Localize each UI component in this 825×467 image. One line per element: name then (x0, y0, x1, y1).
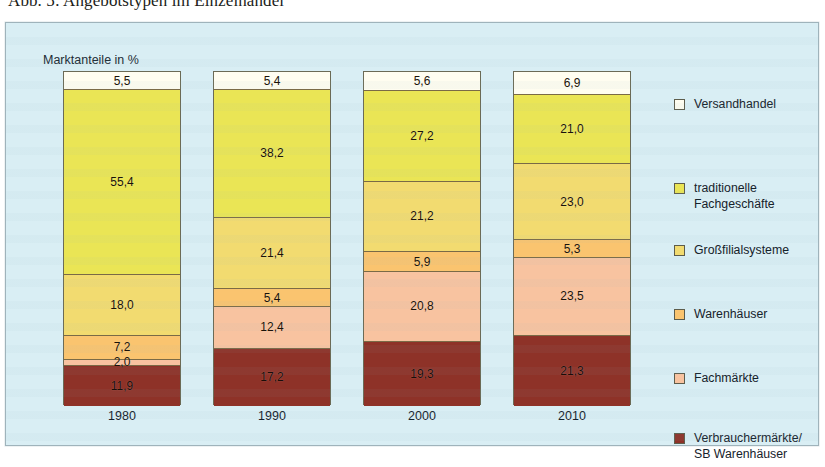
bar-group-1980: 5,555,418,07,22,011,91980 (63, 71, 181, 427)
bar-group-2000: 5,627,221,25,920,819,32000 (363, 71, 481, 427)
stacked-bar[interactable]: 6,921,023,05,323,521,3 (513, 71, 631, 405)
segment-value-label: 17,2 (260, 371, 283, 383)
bar-segment[interactable]: 21,0 (514, 95, 630, 164)
segment-value-label: 27,2 (410, 130, 433, 142)
segment-value-label: 5,4 (264, 75, 281, 87)
segment-value-label: 21,3 (560, 365, 583, 377)
segment-value-label: 23,0 (560, 196, 583, 208)
stacked-bar[interactable]: 5,627,221,25,920,819,3 (363, 71, 481, 405)
segment-value-label: 21,4 (260, 247, 283, 259)
bar-segment[interactable]: 21,4 (214, 218, 330, 289)
bar-segment[interactable]: 17,2 (214, 349, 330, 406)
bar-group-2010: 6,921,023,05,323,521,32010 (513, 71, 631, 427)
segment-value-label: 21,0 (560, 123, 583, 135)
legend-item-label: Großfilialsysteme (694, 243, 789, 259)
bar-segment[interactable]: 21,2 (364, 182, 480, 253)
bar-segment[interactable]: 5,9 (364, 252, 480, 272)
legend-item[interactable]: Großfilialsysteme (674, 243, 789, 259)
legend-color-swatch (674, 183, 685, 194)
axis-title-marktanteile: Marktanteile in % (43, 53, 139, 67)
segment-value-label: 5,9 (414, 256, 431, 268)
bar-segment[interactable]: 5,5 (64, 72, 180, 90)
chart-frame: Marktanteile in % 5,555,418,07,22,011,91… (5, 22, 819, 446)
bar-segment[interactable]: 11,9 (64, 366, 180, 406)
chart-legend: Versandhandeltraditionelle Fachgeschäfte… (674, 71, 820, 427)
bar-segment[interactable]: 6,9 (514, 72, 630, 95)
bar-segment[interactable]: 5,4 (214, 72, 330, 90)
bar-segment[interactable]: 2,0 (64, 360, 180, 367)
legend-color-swatch (674, 99, 685, 110)
bar-segment[interactable]: 23,0 (514, 164, 630, 240)
legend-item[interactable]: Verbrauchermärkte/ SB Warenhäuser (674, 431, 802, 462)
segment-value-label: 6,9 (564, 77, 581, 89)
legend-item[interactable]: Versandhandel (674, 97, 776, 113)
segment-value-label: 5,5 (114, 75, 131, 87)
legend-item-label: traditionelle Fachgeschäfte (694, 181, 775, 212)
segment-value-label: 12,4 (260, 321, 283, 333)
bar-segment[interactable]: 5,3 (514, 240, 630, 258)
bar-segment[interactable]: 12,4 (214, 307, 330, 348)
legend-color-swatch (674, 373, 685, 384)
segment-value-label: 7,2 (114, 341, 131, 353)
legend-color-swatch (674, 309, 685, 320)
segment-value-label: 55,4 (110, 176, 133, 188)
segment-value-label: 23,5 (560, 290, 583, 302)
bar-segment[interactable]: 55,4 (64, 90, 180, 275)
segment-value-label: 5,4 (264, 292, 281, 304)
legend-item[interactable]: Warenhäuser (674, 307, 767, 323)
bar-segment[interactable]: 21,3 (514, 336, 630, 406)
segment-value-label: 21,2 (410, 210, 433, 222)
legend-item[interactable]: Fachmärkte (674, 371, 759, 387)
segment-value-label: 5,3 (564, 243, 581, 255)
bar-segment[interactable]: 38,2 (214, 90, 330, 218)
bar-segment[interactable]: 23,5 (514, 258, 630, 336)
bar-segment[interactable]: 5,4 (214, 289, 330, 307)
bar-segment[interactable]: 5,6 (364, 72, 480, 91)
plot-area: 5,555,418,07,22,011,919805,438,221,45,41… (63, 71, 663, 427)
stacked-bar[interactable]: 5,438,221,45,412,417,2 (213, 71, 331, 405)
bar-segment[interactable]: 18,0 (64, 275, 180, 335)
segment-value-label: 18,0 (110, 299, 133, 311)
x-axis-label-2010: 2010 (513, 409, 631, 423)
segment-value-label: 5,6 (414, 75, 431, 87)
legend-item-label: Verbrauchermärkte/ SB Warenhäuser (694, 431, 802, 462)
x-axis-label-1980: 1980 (63, 409, 181, 423)
segment-value-label: 2,0 (114, 356, 131, 368)
segment-value-label: 11,9 (111, 380, 133, 392)
x-axis-label-1990: 1990 (213, 409, 331, 423)
legend-item[interactable]: traditionelle Fachgeschäfte (674, 181, 775, 212)
legend-color-swatch (674, 433, 685, 444)
stacked-bar[interactable]: 5,555,418,07,22,011,9 (63, 71, 181, 405)
bar-segment[interactable]: 20,8 (364, 272, 480, 341)
legend-color-swatch (674, 245, 685, 256)
segment-value-label: 19,3 (410, 368, 433, 380)
segment-value-label: 38,2 (260, 147, 283, 159)
figure-title: Abb. 5: Angebotstypen im Einzelhandel (8, 0, 284, 11)
legend-item-label: Warenhäuser (694, 307, 767, 323)
bar-segment[interactable]: 27,2 (364, 91, 480, 182)
bar-group-1990: 5,438,221,45,412,417,21990 (213, 71, 331, 427)
segment-value-label: 20,8 (410, 300, 433, 312)
legend-item-label: Versandhandel (694, 97, 776, 113)
legend-item-label: Fachmärkte (694, 371, 759, 387)
x-axis-label-2000: 2000 (363, 409, 481, 423)
bar-segment[interactable]: 19,3 (364, 342, 480, 406)
